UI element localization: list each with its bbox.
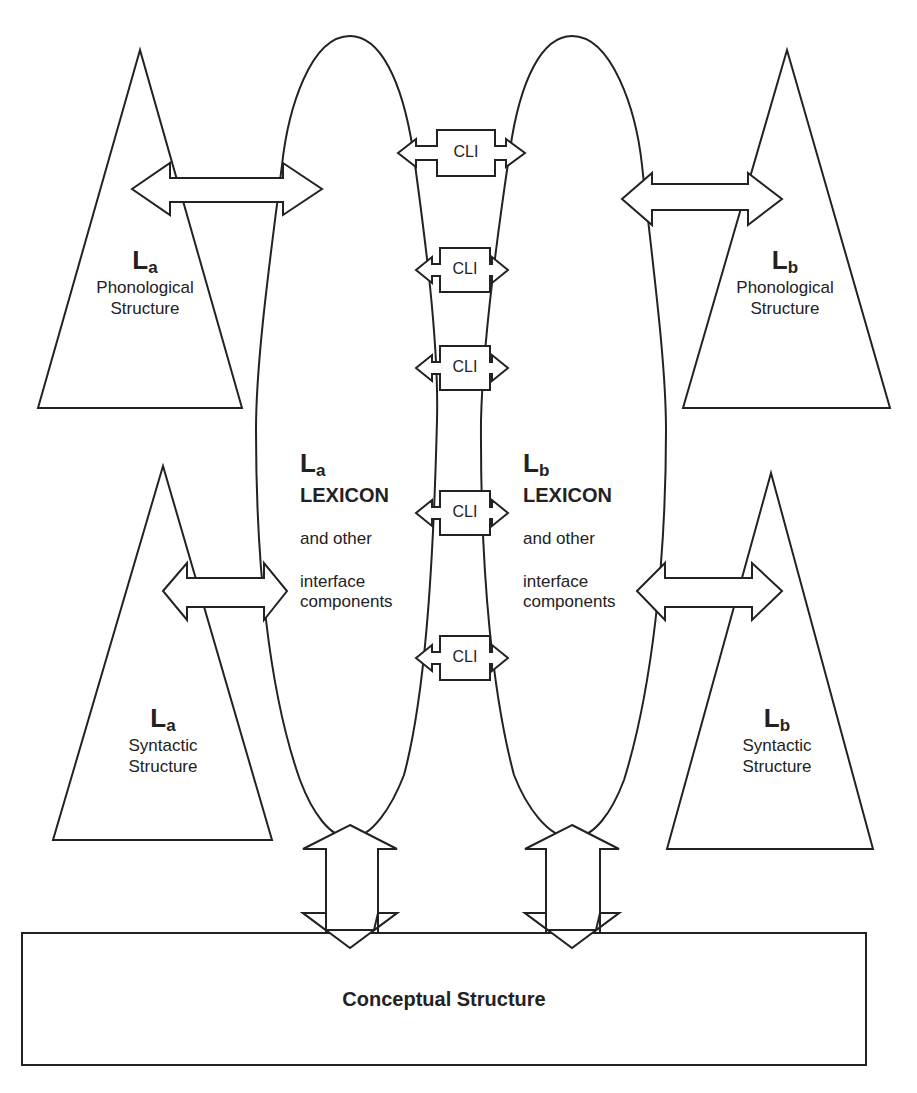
lb-lexicon-syntactic-arrow <box>637 563 782 620</box>
lb-syntactic-label: Lb Syntactic Structure <box>712 703 842 777</box>
lb-syntactic-triangle <box>667 473 873 849</box>
diagram-canvas <box>0 0 917 1093</box>
cli-label-5: CLI <box>435 648 495 666</box>
cli-label-4: CLI <box>435 503 495 521</box>
la-phonological-label: La Phonological Structure <box>80 245 210 319</box>
cli-label-2: CLI <box>435 260 495 278</box>
conceptual-structure-label: Conceptual Structure <box>22 933 866 1065</box>
la-phonological-triangle <box>38 50 242 408</box>
cli-label-1: CLI <box>436 143 496 161</box>
la-lexicon-label: La LEXICON and other interface component… <box>300 448 420 613</box>
la-syntactic-label: La Syntactic Structure <box>98 703 228 777</box>
cli-label-3: CLI <box>435 358 495 376</box>
la-syntactic-lexicon-arrow <box>163 563 287 620</box>
conceptual-structure-text: Conceptual Structure <box>342 988 545 1011</box>
lb-lexicon-phonological-arrow <box>622 173 782 225</box>
lb-lexicon-label: Lb LEXICON and other interface component… <box>523 448 643 613</box>
la-phonological-lexicon-arrow <box>132 163 322 215</box>
la-syntactic-triangle <box>53 466 272 840</box>
lb-phonological-label: Lb Phonological Structure <box>720 245 850 319</box>
lb-phonological-triangle <box>683 50 890 408</box>
